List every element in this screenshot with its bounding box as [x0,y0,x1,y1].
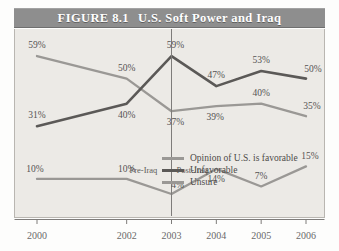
legend-label-favorable: Opinion of U.S. is favorable [190,153,298,164]
x-axis-tick-label: 2000 [27,230,47,241]
point-label: 15% [301,151,318,161]
legend-label-unsure: Unsure [190,177,217,188]
point-label: 50% [304,64,321,74]
page-title: FIGURE 8.1U.S. Soft Power and Iraq [58,11,282,26]
figure-container: FIGURE 8.1U.S. Soft Power and Iraq 59%50… [0,0,339,251]
figure-number: FIGURE 8.1 [58,11,129,25]
legend-swatch-unsure [162,181,184,184]
legend-item-favorable: Opinion of U.S. is favorable [162,153,298,164]
point-label: 50% [118,63,135,73]
x-axis-tick-label: 2003 [162,230,182,241]
point-label: 40% [118,110,135,120]
legend-swatch-favorable [162,157,184,160]
chart-legend: Opinion of U.S. is favorable Unfavorable… [162,153,298,188]
point-label: 39% [207,112,224,122]
pre-iraq-label: Pre-Iraq [130,165,158,175]
x-axis-tick-label: 2005 [251,230,271,241]
point-label: 37% [167,117,184,127]
figure-title: U.S. Soft Power and Iraq [138,11,281,25]
figure-title-bar: FIGURE 8.1U.S. Soft Power and Iraq [14,8,325,28]
legend-item-unfavorable: Unfavorable [162,165,298,176]
x-axis-ticks [37,220,306,225]
point-label: 40% [252,88,269,98]
point-label: 35% [303,101,320,111]
point-label: 31% [28,110,45,120]
x-axis-tick-label: 2004 [206,230,226,241]
legend-swatch-unfavorable [162,169,184,172]
x-axis-tick-label: 2006 [296,230,316,241]
point-label: 59% [28,40,45,50]
x-axis-tick-labels: 200020022003200420052006 [14,230,325,248]
chart-plot-area: 59%50%37%39%40%35%31%40%59%47%53%50%10%1… [14,29,325,218]
legend-label-unfavorable: Unfavorable [190,165,237,176]
point-label: 10% [26,164,43,174]
x-axis-tick-label: 2002 [117,230,137,241]
point-label: 47% [208,70,225,80]
point-label: 59% [167,40,184,50]
point-label: 53% [252,55,269,65]
x-axis: 200020022003200420052006 [14,218,325,248]
legend-item-unsure: Unsure [162,177,298,188]
